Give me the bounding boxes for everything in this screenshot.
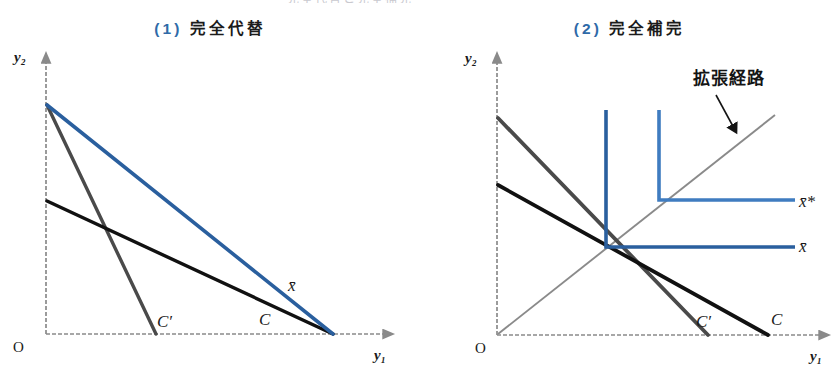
label-c-prime-left: C′ xyxy=(157,312,172,331)
label-c-prime-right: C′ xyxy=(696,312,711,331)
panel-left-title-number: (1) xyxy=(154,20,182,37)
label-c-right: C xyxy=(771,310,783,329)
y-axis-label-left: y₂ xyxy=(12,49,26,65)
label-isoquant-inner-right: x̄ xyxy=(798,237,807,256)
expansion-path-line xyxy=(498,115,775,334)
chart-perfect-substitutes: y₂ y₁ O x̄ C′ C xyxy=(0,0,420,377)
axes-left xyxy=(46,62,384,334)
panel-right-title-text: 完全補完 xyxy=(609,20,685,37)
panel-left-title: (1) 完全代替 xyxy=(0,16,420,38)
panel-perfect-substitutes: (1) 完全代替 y₂ y₁ O xyxy=(0,0,420,377)
figure-root: 完全代替と完全補完 (1) 完全代替 xyxy=(0,0,839,377)
expansion-path-annotation-text: 拡張経路 xyxy=(693,68,765,88)
line-c-prime-right xyxy=(498,118,708,335)
expansion-path-annotation-arrow xyxy=(716,95,735,130)
y-axis-label-right: y₂ xyxy=(463,50,477,66)
x-axis-label-right: y₁ xyxy=(808,348,822,364)
isoquant-outer-right xyxy=(659,110,795,200)
chart-perfect-complements: 拡張経路 y₂ y₁ O x̄* x̄ C′ C xyxy=(420,0,839,377)
line-c-right xyxy=(498,185,768,335)
line-c-prime-left xyxy=(47,105,156,334)
origin-label-left: O xyxy=(13,339,24,355)
panel-perfect-complements: (2) 完全補完 xyxy=(420,0,839,377)
label-isoquant-outer-right: x̄* xyxy=(798,192,816,211)
panel-right-title: (2) 完全補完 xyxy=(420,16,839,38)
label-c-left: C xyxy=(259,310,271,329)
panel-right-title-number: (2) xyxy=(574,20,602,37)
x-axis-label-left: y₁ xyxy=(372,347,386,363)
origin-label-right: O xyxy=(475,340,486,356)
panel-left-title-text: 完全代替 xyxy=(190,20,266,37)
label-isoquant-left: x̄ xyxy=(287,276,296,295)
